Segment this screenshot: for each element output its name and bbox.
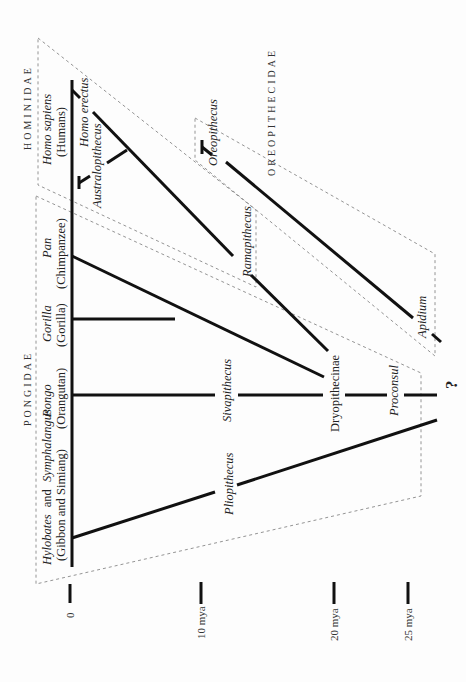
label-pliopithecus: Pliopithecus [222,452,236,516]
family-label-hominidae: HOMINIDAE [22,65,33,150]
time-label-10: 10 mya [195,606,207,639]
label-unknown-origin: ? [442,381,461,390]
label-homo-sapiens: Homo sapiens (Humans) [40,94,68,166]
pan-branch [72,256,324,377]
label-homo-erectus: Homo erectus [77,78,91,148]
hylobates-branch [72,492,215,538]
time-label-25: 25 mya [402,608,414,641]
label-apidium: Apidium [415,296,429,339]
phylogeny-diagram: HOMINIDAE PONGIDAE OREOPITHECIDAE Homo s… [0,0,466,682]
svg-text:(Chimpanzee): (Chimpanzee) [54,218,68,289]
label-oreopithecus: Oreopithecus [206,99,220,166]
label-dryopithecinae: Dryopithecinae [328,354,342,432]
svg-text:Hylobates and Symp: Hylobates and Symphalangus [40,409,54,566]
family-label-pongidae: PONGIDAE [22,351,33,426]
time-axis: 0 10 mya 20 mya 25 mya [64,582,414,641]
label-hylobates: Hylobates and Symphalangus (Gibbon and S… [40,409,68,566]
label-sivapithecus: Sivapithecus [220,359,234,422]
svg-text:(Gorilla): (Gorilla) [54,303,68,347]
time-label-20: 20 mya [328,608,340,641]
svg-text:Pan: Pan [40,238,54,259]
apidium-branch [432,334,441,342]
label-gorilla: Gorilla (Gorilla) [40,303,68,347]
svg-text:(Gibbon and Simiang): (Gibbon and Simiang) [54,449,68,561]
svg-text:(Orangutan): (Orangutan) [54,368,68,429]
australopithecus-branch [107,150,127,163]
ramapithecus-branch [251,275,328,351]
oreopithecus-branch [226,162,413,318]
australopithecus-marker-bar [79,176,90,183]
svg-text:Homo sapiens: Homo sapiens [40,94,54,166]
label-pan: Pan (Chimpanzee) [40,218,68,289]
svg-text:(Humans): (Humans) [54,107,68,157]
label-australopithecus: Australopithecus [90,123,104,209]
label-ramapithecus: Ramapithecus [240,206,254,278]
label-proconsul: Proconsul [387,365,401,417]
family-label-oreopithecidae: OREOPITHECIDAE [266,48,277,176]
time-label-0: 0 [64,612,76,618]
svg-text:Gorilla: Gorilla [40,305,54,342]
